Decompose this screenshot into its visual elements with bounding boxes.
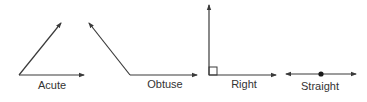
acute-angle: Acute [19, 23, 84, 91]
right-label: Right [231, 78, 257, 90]
angle-types-diagram: Acute Obtuse Right Straight [0, 0, 367, 102]
right-angle-marker [209, 67, 217, 75]
right-angle: Right [209, 5, 276, 90]
straight-vertex-dot [318, 71, 323, 76]
acute-ray-diagonal [19, 23, 61, 75]
obtuse-ray-diagonal [89, 23, 130, 75]
straight-label: Straight [301, 80, 339, 92]
obtuse-angle: Obtuse [89, 23, 197, 90]
obtuse-label: Obtuse [147, 78, 182, 90]
acute-label: Acute [38, 79, 66, 91]
straight-angle: Straight [286, 71, 356, 92]
